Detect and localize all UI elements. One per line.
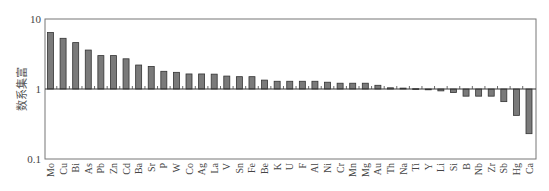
bar-mo bbox=[48, 33, 54, 89]
x-label-ag: Ag bbox=[196, 163, 207, 175]
x-label-ti: Ti bbox=[410, 163, 421, 172]
bar-co bbox=[186, 74, 192, 89]
y-tick-label: 10 bbox=[30, 13, 42, 25]
x-label-mg: Mg bbox=[360, 163, 371, 177]
y-tick-label: 1 bbox=[36, 83, 42, 95]
x-label-v: V bbox=[221, 162, 232, 170]
x-label-sb: Sb bbox=[498, 163, 509, 174]
y-axis-title-char: 集 bbox=[15, 78, 28, 89]
x-label-sn: Sn bbox=[234, 163, 245, 174]
bar-al bbox=[312, 81, 318, 89]
x-label-mn: Mn bbox=[347, 163, 358, 177]
bar-f bbox=[299, 81, 305, 89]
x-label-p: P bbox=[158, 163, 169, 169]
bar-zn bbox=[110, 56, 116, 89]
bar-ni bbox=[325, 82, 331, 89]
x-label-fe: Fe bbox=[246, 162, 257, 173]
bar-v bbox=[224, 76, 230, 89]
bar-k bbox=[274, 81, 280, 89]
bar-ba bbox=[136, 65, 142, 89]
y-axis-ticks: 1010.1 bbox=[27, 13, 41, 165]
x-label-w: W bbox=[171, 162, 182, 172]
x-label-zn: Zn bbox=[108, 163, 119, 174]
bar-sr bbox=[148, 66, 154, 89]
bar-be bbox=[262, 80, 268, 89]
bar-au bbox=[375, 85, 381, 89]
x-label-zr: Zr bbox=[486, 162, 497, 172]
x-label-la: La bbox=[209, 162, 220, 173]
x-label-ca: Ca bbox=[524, 162, 535, 174]
x-label-sr: Sr bbox=[146, 162, 157, 172]
bar-fe bbox=[249, 77, 255, 89]
x-label-b: B bbox=[461, 163, 472, 170]
bar-sn bbox=[236, 77, 242, 89]
y-axis-title-char: 数 bbox=[16, 100, 28, 111]
bar-ag bbox=[199, 74, 205, 89]
x-label-as: As bbox=[83, 163, 94, 174]
x-label-be: Be bbox=[259, 162, 270, 174]
x-label-th: Th bbox=[385, 163, 396, 174]
bar-mn bbox=[350, 83, 356, 89]
bar-la bbox=[211, 74, 217, 89]
x-label-hg: Hg bbox=[511, 163, 522, 175]
x-label-ni: Ni bbox=[322, 163, 333, 173]
x-label-cu: Cu bbox=[58, 163, 69, 175]
bar-p bbox=[161, 71, 167, 89]
bar-si bbox=[450, 89, 456, 93]
x-label-ba: Ba bbox=[133, 162, 144, 174]
enrichment-coefficient-chart: 富集系数 1010.1 MoCuBiAsPbZnCdBaSrPWCoAgLaVS… bbox=[0, 0, 549, 191]
x-label-u: U bbox=[284, 162, 295, 170]
bar-as bbox=[85, 50, 91, 89]
x-label-al: Al bbox=[309, 163, 320, 173]
x-label-cd: Cd bbox=[121, 163, 132, 175]
y-tick-label: 0.1 bbox=[27, 153, 41, 165]
y-axis-title-char: 系 bbox=[16, 89, 28, 100]
bar-cd bbox=[123, 59, 129, 89]
x-label-k: K bbox=[272, 162, 283, 170]
x-label-au: Au bbox=[372, 163, 383, 175]
x-label-cr: Cr bbox=[335, 162, 346, 173]
x-label-bi: Bi bbox=[70, 163, 81, 173]
bar-series bbox=[48, 33, 533, 134]
bar-hg bbox=[513, 89, 519, 115]
bar-bi bbox=[73, 43, 79, 89]
bar-cr bbox=[337, 83, 343, 89]
x-label-li: Li bbox=[435, 163, 446, 172]
x-label-co: Co bbox=[184, 163, 195, 175]
bar-zr bbox=[488, 89, 494, 96]
x-label-f: F bbox=[297, 163, 308, 169]
bar-nb bbox=[476, 89, 482, 96]
bar-sb bbox=[501, 89, 507, 102]
bar-w bbox=[173, 72, 179, 89]
x-label-mo: Mo bbox=[45, 163, 56, 177]
x-axis-labels: MoCuBiAsPbZnCdBaSrPWCoAgLaVSnFeBeKUFAlNi… bbox=[45, 162, 535, 177]
bar-cu bbox=[60, 38, 66, 89]
y-axis-title: 富集系数 bbox=[15, 67, 28, 111]
bar-ca bbox=[526, 89, 532, 134]
x-label-pb: Pb bbox=[95, 163, 106, 174]
bar-pb bbox=[98, 56, 104, 89]
bar-mg bbox=[362, 83, 368, 89]
x-label-y: Y bbox=[423, 163, 434, 170]
bar-u bbox=[287, 81, 293, 89]
x-label-na: Na bbox=[398, 162, 409, 174]
y-axis-title-char: 富 bbox=[15, 67, 28, 78]
x-label-nb: Nb bbox=[473, 163, 484, 175]
x-label-si: Si bbox=[448, 163, 459, 172]
bar-b bbox=[463, 89, 469, 96]
